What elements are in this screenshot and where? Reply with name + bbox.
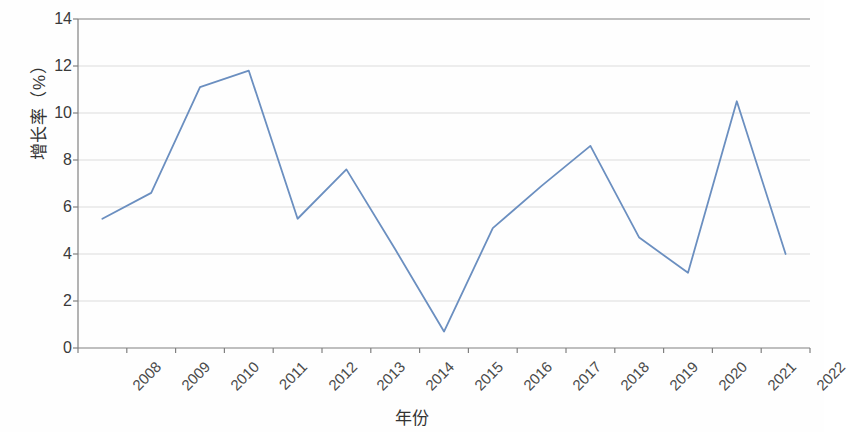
data-line-series [102, 71, 785, 332]
x-axis-title: 年份 [0, 404, 824, 429]
